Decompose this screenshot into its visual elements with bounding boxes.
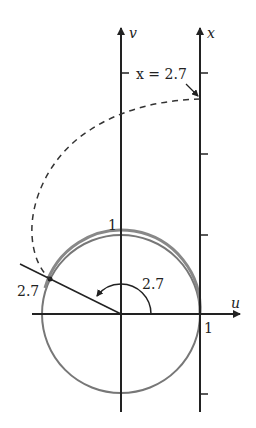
pointer-arrow (186, 84, 198, 96)
wrapping-function-diagram: v x u x = 2.7 1 1 2.7 2.7 (0, 0, 256, 428)
v-axis-label: v (129, 25, 137, 41)
arc-point-label: 2.7 (17, 283, 39, 299)
x-equals-label: x = 2.7 (136, 66, 187, 82)
u-axis-label: u (231, 295, 240, 311)
wrapped-arc (45, 230, 200, 314)
angle-label: 2.7 (142, 276, 164, 292)
one-top-label: 1 (108, 217, 117, 233)
one-right-label: 1 (204, 320, 213, 336)
x-axis-label: x (207, 25, 215, 41)
